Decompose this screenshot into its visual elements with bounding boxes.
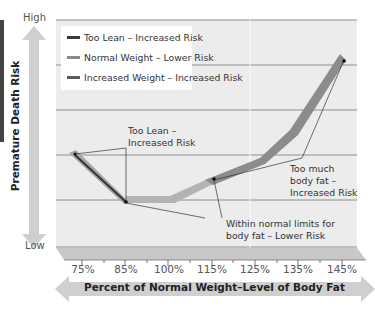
annotation-too-lean: Too Lean – Increased Risk — [128, 125, 195, 149]
chart-legend: Too Lean – Increased Risk Normal Weight … — [61, 26, 192, 90]
annotation-too-much-fat: Too much body fat – Increased Risk — [290, 163, 357, 199]
x-tick-label: 135% — [283, 263, 313, 275]
legend-swatch-icon — [67, 56, 80, 59]
x-axis-label: Percent of Normal Weight–Level of Body F… — [27, 281, 375, 293]
legend-item-increased-weight: Increased Weight – Increased Risk — [67, 72, 243, 83]
legend-item-normal-weight: Normal Weight – Lower Risk — [67, 52, 214, 63]
x-tick-label: 125% — [240, 263, 270, 275]
x-tick-label: 100% — [154, 263, 184, 275]
legend-item-too-lean: Too Lean – Increased Risk — [67, 32, 203, 43]
legend-swatch-icon — [67, 36, 80, 39]
legend-swatch-icon — [67, 76, 80, 79]
x-tick-label: 145% — [327, 263, 357, 275]
x-tick-label: 115% — [197, 263, 227, 275]
annotation-normal-limits: Within normal limits for body fat – Lowe… — [226, 218, 335, 242]
x-tick-label: 75% — [71, 263, 94, 275]
x-tick-label: 85% — [114, 263, 137, 275]
